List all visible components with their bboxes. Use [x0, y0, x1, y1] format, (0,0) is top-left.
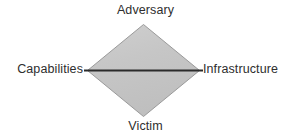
node-label-adversary: Adversary	[0, 3, 291, 17]
node-label-infrastructure: Infrastructure	[203, 62, 278, 76]
node-label-capabilities: Capabilities	[0, 62, 83, 76]
diamond-model-diagram: Adversary Capabilities Infrastructure Vi…	[0, 0, 291, 138]
node-label-victim: Victim	[0, 119, 291, 133]
